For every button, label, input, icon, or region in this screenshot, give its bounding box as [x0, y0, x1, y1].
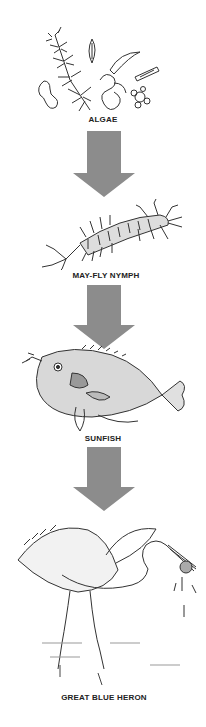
arrow-down-icon [73, 447, 137, 511]
organism-label-mayfly-nymph: MAY-FLY NYMPH [58, 271, 154, 280]
arrow-down-icon [73, 285, 137, 349]
algae-illustration [30, 25, 180, 115]
organism-label-great-blue-heron: GREAT BLUE HERON [54, 693, 154, 702]
organism-label-algae: ALGAE [80, 115, 126, 124]
mayfly-nymph-illustration [28, 195, 188, 270]
arrow-down-icon [73, 131, 137, 197]
sunfish-illustration [12, 345, 190, 435]
heron-illustration [10, 515, 200, 690]
organism-label-sunfish: SUNFISH [78, 434, 128, 443]
